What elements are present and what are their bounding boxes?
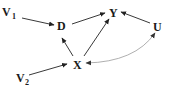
node-x-label: X [73,58,82,72]
node-d-label: D [57,19,66,33]
node-d: D [57,19,66,33]
edge-d-to-y [72,13,105,24]
node-v1-subscript: 1 [12,12,16,21]
edge-v2-to-x [29,64,67,75]
node-u: U [153,20,162,34]
node-v2: V 2 [16,71,29,87]
node-y-label: Y [109,6,118,20]
edge-v1-to-d [22,18,54,25]
node-x: X [73,58,82,72]
node-v1-label: V [2,5,11,19]
causal-diagram: V 1 D Y U X V 2 [0,0,169,87]
edge-x-to-y [84,19,109,56]
edge-u-to-y [121,12,150,23]
node-v2-subscript: 2 [25,78,29,87]
node-u-label: U [153,20,162,34]
node-v2-label: V [16,71,25,85]
node-v1: V 1 [2,5,16,21]
node-y: Y [109,6,118,20]
edge-x-to-d [62,38,73,56]
